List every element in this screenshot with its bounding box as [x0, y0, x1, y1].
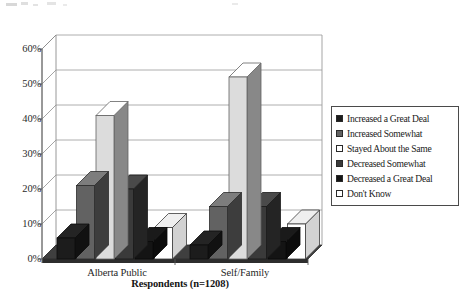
x-category-label-self-family: Self/Family [190, 267, 300, 278]
legend-swatch-icon [336, 115, 343, 122]
legend-item[interactable]: Don't Know [336, 186, 455, 201]
legend-item[interactable]: Increased a Great Deal [336, 111, 455, 126]
legend-item[interactable]: Decreased a Great Deal [336, 171, 455, 186]
legend-item[interactable]: Decreased Somewhat [336, 156, 455, 171]
legend-swatch-icon [336, 190, 343, 197]
y-axis-labels: 60% 50% 40% 30% 20% 10% 0% [5, 0, 41, 302]
legend-swatch-icon [336, 160, 343, 167]
y-tick-label: 10% [7, 219, 41, 229]
y-tick-label: 20% [7, 184, 41, 194]
legend-label: Don't Know [347, 189, 391, 199]
legend-item[interactable]: Stayed About the Same [336, 141, 455, 156]
legend-label: Decreased a Great Deal [347, 174, 432, 184]
y-tick-label: 30% [7, 149, 41, 159]
y-tick-label: 60% [7, 44, 41, 54]
legend-item[interactable]: Increased Somewhat [336, 126, 455, 141]
legend-swatch-icon [336, 175, 343, 182]
bar-chart: 60% 50% 40% 30% 20% 10% 0% Alberta Publi… [0, 0, 465, 302]
legend-swatch-icon [336, 130, 343, 137]
legend-label: Increased a Great Deal [347, 114, 429, 124]
x-category-label-alberta-public: Alberta Public [62, 267, 172, 278]
legend-swatch-icon [336, 145, 343, 152]
x-axis-title: Respondents (n=1208) [60, 278, 300, 289]
legend-label: Increased Somewhat [347, 129, 422, 139]
y-tick-label: 50% [7, 79, 41, 89]
legend-label: Stayed About the Same [347, 144, 432, 154]
y-tick-label: 40% [7, 114, 41, 124]
axis-side-wall [42, 35, 56, 259]
chart-legend: Increased a Great Deal Increased Somewha… [331, 106, 459, 206]
y-tick-label: 0% [7, 254, 41, 264]
legend-label: Decreased Somewhat [347, 159, 425, 169]
